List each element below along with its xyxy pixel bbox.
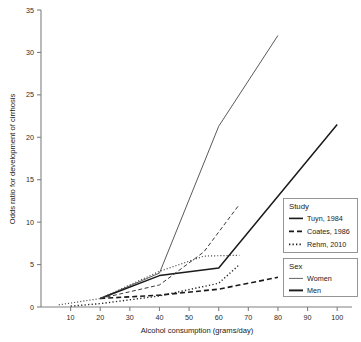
x-axis-title: Alcohol consumption (grams/day) [141, 326, 254, 335]
x-tick-label: 10 [67, 313, 75, 322]
legend-sex-title: Sex [289, 262, 303, 271]
y-tick-label: 35 [26, 6, 34, 15]
line-chart: 05101520253035 102030405060708090100 Odd… [0, 0, 361, 342]
legend-study[interactable]: Study Tuyn, 1984Coates, 1986Rehm, 2010 [284, 199, 358, 253]
x-tick-label: 20 [96, 313, 104, 322]
series-line [100, 35, 278, 298]
x-tick-label: 50 [185, 313, 193, 322]
legend-sex-label[interactable]: Women [307, 274, 332, 283]
x-tick-label: 60 [215, 313, 223, 322]
x-tick-label: 30 [126, 313, 134, 322]
series-line [100, 204, 239, 298]
chart-figure: 05101520253035 102030405060708090100 Odd… [0, 0, 361, 342]
legend-study-label[interactable]: Coates, 1986 [307, 227, 350, 236]
legend-sex[interactable]: Sex WomenMen [284, 259, 358, 297]
y-tick-label: 15 [26, 175, 34, 184]
x-tick-label: 90 [304, 313, 312, 322]
series-line [71, 265, 240, 307]
legend-study-label[interactable]: Rehm, 2010 [307, 240, 346, 249]
y-tick-label: 5 [30, 260, 34, 269]
y-tick-label: 0 [30, 303, 34, 312]
legend-study-title: Study [289, 202, 309, 211]
legend-sex-label[interactable]: Men [307, 286, 321, 295]
x-tick-label: 70 [244, 313, 252, 322]
x-axis-ticks: 102030405060708090100 [67, 307, 344, 322]
legend-study-label[interactable]: Tuyn, 1984 [307, 214, 343, 223]
y-axis-title: Odds ratio for development of cirrhosis [8, 94, 17, 225]
y-tick-label: 30 [26, 48, 34, 57]
y-tick-label: 25 [26, 90, 34, 99]
x-tick-label: 80 [274, 313, 282, 322]
y-axis-ticks: 05101520253035 [26, 6, 41, 312]
x-tick-label: 100 [331, 313, 343, 322]
y-tick-label: 10 [26, 218, 34, 227]
x-tick-label: 40 [155, 313, 163, 322]
y-tick-label: 20 [26, 133, 34, 142]
